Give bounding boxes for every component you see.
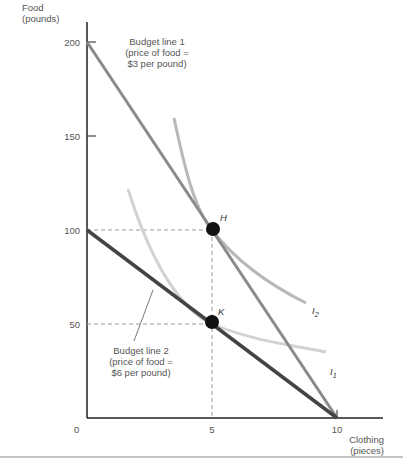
point-h <box>206 222 220 236</box>
x-tick-label-5: 5 <box>202 424 222 435</box>
budget-line-2-pointer <box>134 290 153 341</box>
x-axis-label-line-2: (pieces) <box>340 445 384 456</box>
x-axis-label: Clothing (pieces) <box>340 434 384 456</box>
origin-label: 0 <box>74 424 79 435</box>
y-tick-label-200: 200 <box>50 37 80 48</box>
indifference-curve-i2 <box>174 118 306 303</box>
curve-label-i2: I2 <box>312 305 319 320</box>
y-tick-label-50: 50 <box>50 319 80 330</box>
annotation-2-line-1: Budget line 2 <box>96 345 186 356</box>
curve-label-i2-sub: 2 <box>315 311 319 318</box>
budget-line-2-annotation: Budget line 2 (price of food = $6 per po… <box>96 345 186 378</box>
annotation-2-line-3: $6 per pound) <box>96 367 186 378</box>
annotation-1-line-1: Budget line 1 <box>112 36 202 47</box>
x-axis-label-line-1: Clothing <box>340 434 384 445</box>
y-axis-label-line-2: (pounds) <box>22 13 60 24</box>
budget-line-1-annotation: Budget line 1 (price of food = $3 per po… <box>112 36 202 69</box>
y-tick-label-150: 150 <box>50 131 80 142</box>
y-tick-label-100: 100 <box>50 225 80 236</box>
curve-label-i1: I1 <box>330 366 337 381</box>
annotation-1-line-2: (price of food = <box>112 47 202 58</box>
y-axis-label-line-1: Food <box>22 2 60 13</box>
point-k <box>205 315 219 329</box>
annotation-1-line-3: $3 per pound) <box>112 58 202 69</box>
annotation-2-line-2: (price of food = <box>96 356 186 367</box>
point-k-label: K <box>218 306 224 317</box>
y-axis-label: Food (pounds) <box>22 2 60 24</box>
point-h-label: H <box>220 212 227 223</box>
curve-label-i1-sub: 1 <box>333 372 337 379</box>
indifference-curve-i1 <box>128 189 326 352</box>
chart-canvas <box>0 0 403 472</box>
